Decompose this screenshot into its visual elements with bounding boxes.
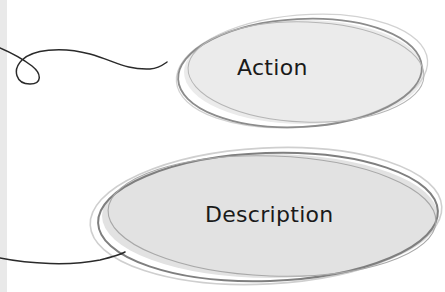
action-label: Action [237, 55, 308, 80]
action-connector [0, 48, 167, 84]
description-connector [0, 252, 125, 264]
description-label: Description [205, 202, 334, 227]
diagram-canvas [0, 0, 445, 292]
